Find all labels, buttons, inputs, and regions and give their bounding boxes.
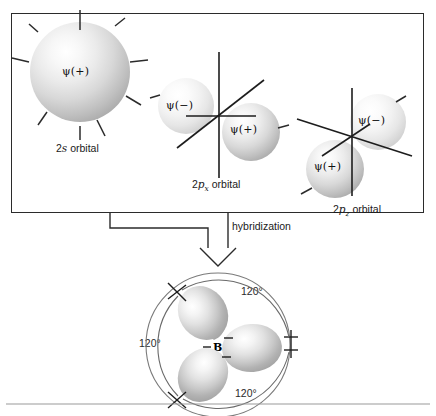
orbital-2s-caption: 2s orbital: [56, 142, 99, 154]
orbital-2pz-caption-suffix: orbital: [350, 203, 382, 215]
orbital-2pz-psi-positive-label: ψ(+): [314, 160, 341, 173]
central-atom-label: B: [213, 341, 222, 354]
hybrid-lobe-lower-left-label: ψ(+): [187, 366, 214, 379]
hybrid-axis-cross-lower-left: [168, 392, 186, 408]
orbital-2px-caption-symbol: p: [198, 178, 205, 190]
bond-angle-upper-right: 120°: [241, 285, 263, 297]
orbital-2pz-caption: 2pz orbital: [333, 203, 381, 218]
bond-angle-arc-bottom-right: [183, 352, 289, 408]
orbital-2s-psi-label: ψ(+): [62, 65, 89, 78]
bond-angle-bottom-right: 120°: [235, 387, 257, 399]
hybrid-axis-cross-upper-left: [168, 283, 186, 301]
orbital-2px-caption: 2px orbital: [192, 178, 240, 193]
orbital-2px-psi-positive-label: ψ(+): [230, 123, 257, 136]
orbital-2pz-psi-negative-label: ψ(−): [358, 114, 385, 127]
orbital-2px-caption-suffix: orbital: [209, 178, 241, 190]
hybrid-lobe-upper-left-label: ψ(+): [187, 306, 214, 319]
hybrid-axis-cross-right: [284, 330, 298, 358]
orbital-2pz-caption-symbol: p: [339, 203, 346, 215]
orbital-hybridization-figure: ψ(+) 2s orbital ψ(−) ψ(+) 2px orbital ψ(…: [0, 0, 436, 416]
hybridization-arrow-label: hybridization: [232, 220, 291, 232]
hybrid-lobe-right-label: ψ(+): [238, 340, 265, 353]
hybridization-arrow-icon: [110, 213, 236, 266]
orbital-2px-psi-negative-label: ψ(−): [166, 99, 193, 112]
bond-angle-left: 120°: [139, 337, 161, 349]
orbital-2s-caption-suffix: orbital: [67, 142, 99, 154]
bond-angle-arc-left: [158, 296, 178, 396]
